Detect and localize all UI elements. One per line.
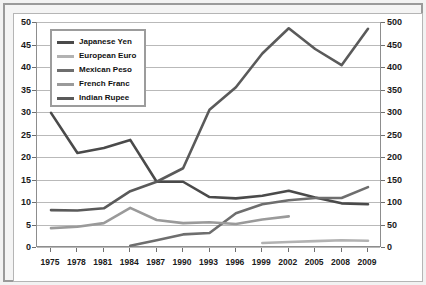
legend-item-japanese-yen: Japanese Yen	[57, 35, 141, 49]
x-axis-tickmark	[76, 248, 77, 252]
right-axis-tick-300: 300	[387, 108, 417, 117]
legend-swatch-icon	[57, 69, 74, 72]
x-axis-tickmark	[341, 248, 342, 252]
right-axis-tick-150: 150	[387, 176, 417, 185]
left-axis-tick-20: 20	[5, 153, 31, 162]
left-axis-tick-25: 25	[5, 131, 31, 140]
right-axis-tick-100: 100	[387, 198, 417, 207]
series-line-japanese-yen	[51, 113, 368, 204]
x-axis-tickmark	[261, 248, 262, 252]
legend-item-label: Mexican Peso	[79, 66, 132, 74]
x-axis-tick-2009: 2009	[350, 258, 384, 267]
x-axis-tickmark	[129, 248, 130, 252]
left-axis-tick-40: 40	[5, 63, 31, 72]
x-axis-tickmark	[156, 248, 157, 252]
legend-item-label: French Franc	[79, 80, 130, 88]
legend-swatch-icon	[57, 41, 74, 44]
series-line-european-euro	[262, 240, 368, 243]
gridline	[37, 247, 380, 248]
right-axis-tick-450: 450	[387, 41, 417, 50]
left-axis-tick-0: 0	[5, 243, 31, 252]
right-axis-tick-0: 0	[387, 243, 417, 252]
left-axis-tick-5: 5	[5, 221, 31, 230]
left-axis-tick-35: 35	[5, 86, 31, 95]
legend: Japanese YenEuropean EuroMexican PesoFre…	[50, 29, 146, 107]
right-axis-tick-200: 200	[387, 153, 417, 162]
legend-swatch-icon	[57, 55, 74, 58]
legend-item-label: Indian Rupee	[79, 94, 129, 102]
legend-item-mexican-peso: Mexican Peso	[57, 63, 141, 77]
right-axis-tick-50: 50	[387, 221, 417, 230]
legend-item-french-franc: French Franc	[57, 77, 141, 91]
legend-item-label: Japanese Yen	[79, 38, 132, 46]
left-axis-tickmark	[32, 247, 36, 248]
x-axis-tickmark	[50, 248, 51, 252]
x-axis-tickmark	[288, 248, 289, 252]
right-axis-tick-400: 400	[387, 63, 417, 72]
left-axis-tick-15: 15	[5, 176, 31, 185]
right-axis-tick-500: 500	[387, 18, 417, 27]
right-axis-tick-350: 350	[387, 86, 417, 95]
legend-swatch-icon	[57, 97, 74, 100]
x-axis-tickmark	[103, 248, 104, 252]
x-axis-tickmark	[235, 248, 236, 252]
x-axis-tickmark	[182, 248, 183, 252]
chart-screenshot: 05101520253035404550 0501001502002503003…	[0, 0, 426, 285]
left-axis-tick-10: 10	[5, 198, 31, 207]
legend-item-indian-rupee: Indian Rupee	[57, 91, 141, 105]
x-axis-tickmark	[209, 248, 210, 252]
x-axis-tickmark	[367, 248, 368, 252]
left-axis-tick-30: 30	[5, 108, 31, 117]
left-axis-tick-45: 45	[5, 41, 31, 50]
x-axis-tickmark	[314, 248, 315, 252]
legend-swatch-icon	[57, 83, 74, 86]
legend-item-label: European Euro	[79, 52, 136, 60]
right-axis-tickmark	[381, 247, 385, 248]
left-axis-tick-50: 50	[5, 18, 31, 27]
legend-item-european-euro: European Euro	[57, 49, 141, 63]
right-axis-tick-250: 250	[387, 131, 417, 140]
